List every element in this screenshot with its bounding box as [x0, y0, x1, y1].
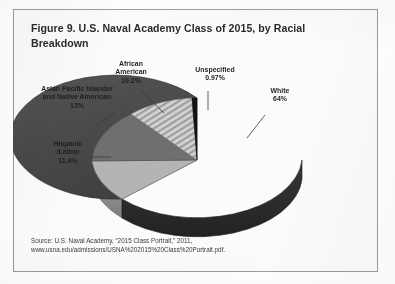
leader-line-white — [247, 115, 265, 138]
pie-label-hispanic-latino: Hispanic /Latino 11.4% — [32, 140, 104, 165]
pie-label-asian-pacific-islander-native-american: Asian Pacific Islander and Native Americ… — [22, 85, 132, 110]
pie-label-white: White 64% — [243, 87, 317, 104]
pie-label-african-american: African American 10.2% — [104, 60, 158, 85]
source-note: Source: U.S. Naval Academy, “2015 Class … — [31, 236, 367, 254]
scanned-page: Figure 9. U.S. Naval Academy Class of 20… — [0, 0, 395, 284]
pie-label-unspecified: Unspecified 0.97% — [184, 66, 246, 83]
